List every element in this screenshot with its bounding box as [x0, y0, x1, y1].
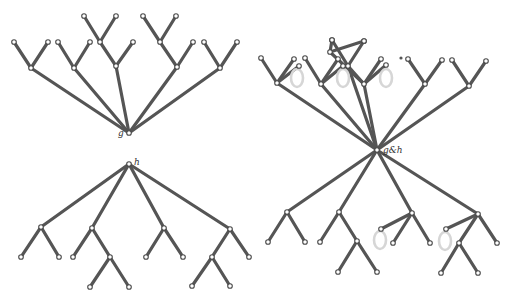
- leaf-node: [82, 14, 87, 19]
- tree-edge: [164, 228, 183, 257]
- tree-edge: [110, 257, 129, 287]
- tree-edge: [143, 16, 160, 42]
- leaf-node: [439, 271, 444, 276]
- tree-edge: [377, 86, 469, 150]
- internal-node: [114, 64, 119, 69]
- tree-edge: [160, 42, 177, 67]
- tree-edge: [268, 212, 287, 242]
- tree-edge: [212, 257, 230, 286]
- leaf-node: [450, 58, 455, 63]
- internal-node: [275, 81, 280, 86]
- root-node-h: [127, 162, 132, 167]
- leaf-node: [131, 40, 136, 45]
- tree-edge: [261, 58, 277, 83]
- leaf-node: [428, 241, 433, 246]
- tree-edge: [338, 241, 357, 272]
- identification-loop: [439, 232, 451, 250]
- tree-edge: [192, 257, 212, 286]
- root-label-g: g: [118, 128, 124, 138]
- internal-node: [319, 82, 324, 87]
- leaf-node: [303, 56, 308, 61]
- internal-node: [158, 40, 163, 45]
- tree-edge: [116, 42, 133, 66]
- leaf-node: [191, 40, 196, 45]
- leaf-node: [384, 63, 389, 68]
- internal-node: [285, 210, 290, 215]
- tree-edge: [129, 68, 220, 133]
- leaf-node: [174, 14, 179, 19]
- tree-edge: [84, 16, 100, 42]
- tree-edge: [58, 42, 74, 68]
- leaf-node: [235, 40, 240, 45]
- internal-node: [175, 65, 180, 70]
- identification-loop: [291, 69, 303, 87]
- tree-edge: [425, 60, 442, 84]
- internal-node: [72, 66, 77, 71]
- internal-node: [346, 64, 351, 69]
- internal-node: [337, 210, 342, 215]
- tree-edge: [339, 150, 377, 212]
- identification-loop: [380, 69, 392, 87]
- leaf-node: [71, 255, 76, 260]
- identification-loop: [374, 231, 386, 249]
- internal-node: [90, 226, 95, 231]
- leaf-node: [141, 14, 146, 19]
- leaf-node: [336, 57, 341, 62]
- root-node-g: [127, 131, 132, 136]
- tree-edge: [320, 212, 339, 242]
- internal-node: [355, 239, 360, 244]
- tree-edge: [230, 229, 249, 257]
- leaf-node: [297, 64, 302, 69]
- tree-edge: [459, 243, 478, 273]
- internal-node: [39, 225, 44, 230]
- leaf-node: [379, 227, 384, 232]
- leaf-node: [484, 59, 489, 64]
- leaf-node: [406, 57, 411, 62]
- internal-node: [328, 50, 333, 55]
- leaf-node: [190, 284, 195, 289]
- tree-edge: [74, 42, 90, 68]
- internal-node: [476, 212, 481, 217]
- tree-edge: [90, 257, 110, 287]
- internal-node: [362, 82, 367, 87]
- tree-edge: [31, 68, 129, 133]
- leaf-node: [12, 40, 17, 45]
- leaf-node: [318, 240, 323, 245]
- leaf-node: [88, 40, 93, 45]
- leaf-node: [440, 58, 445, 63]
- tree-diagram: g h g&h: [0, 0, 512, 300]
- tree-edge: [287, 212, 305, 242]
- leaf-node: [144, 255, 149, 260]
- tree-edge: [41, 227, 59, 257]
- internal-node: [457, 241, 462, 246]
- tree-edge: [31, 42, 48, 68]
- identification-loop: [337, 69, 349, 87]
- tree-edge: [177, 42, 193, 67]
- tree-edge: [377, 84, 425, 150]
- leaf-node: [444, 227, 449, 232]
- tree-edge: [305, 58, 321, 84]
- tree-edge: [478, 214, 497, 243]
- tree-edge: [14, 42, 31, 68]
- internal-node: [410, 211, 415, 216]
- leaf-node: [202, 40, 207, 45]
- tree-edge: [73, 228, 92, 257]
- root-node-g-and-h: [375, 148, 380, 153]
- leaf-node: [391, 241, 396, 246]
- tree-edge: [21, 227, 41, 257]
- leaf-node: [330, 38, 335, 43]
- tree-edge: [377, 150, 478, 214]
- tree-edge: [160, 16, 176, 42]
- tree-edge: [469, 61, 486, 86]
- internal-node: [467, 84, 472, 89]
- internal-node: [162, 226, 167, 231]
- leaf-node: [303, 240, 308, 245]
- leaf-node: [228, 284, 233, 289]
- leaf-node: [247, 255, 252, 260]
- leaf-node: [362, 39, 367, 44]
- tree-edge: [92, 228, 110, 257]
- leaf-node: [379, 57, 384, 62]
- tree-edge: [287, 150, 377, 212]
- leaf-node: [266, 240, 271, 245]
- tree-edge: [100, 42, 116, 66]
